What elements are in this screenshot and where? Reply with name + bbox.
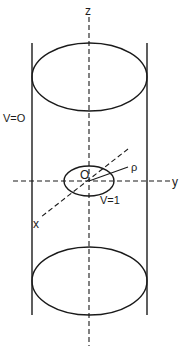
x-axis — [41, 149, 128, 217]
origin-label: O — [80, 168, 89, 182]
outer-potential-label: V=O — [3, 112, 26, 124]
x-axis-label: x — [33, 217, 39, 231]
rho-label: ρ — [131, 161, 137, 173]
z-axis-label: z — [85, 4, 91, 18]
y-axis-label: y — [172, 175, 178, 189]
cylinder-diagram: z y x O ρ V=O V=1 — [0, 0, 185, 357]
rho-radius-line — [89, 167, 128, 181]
inner-potential-label: V=1 — [100, 194, 120, 206]
